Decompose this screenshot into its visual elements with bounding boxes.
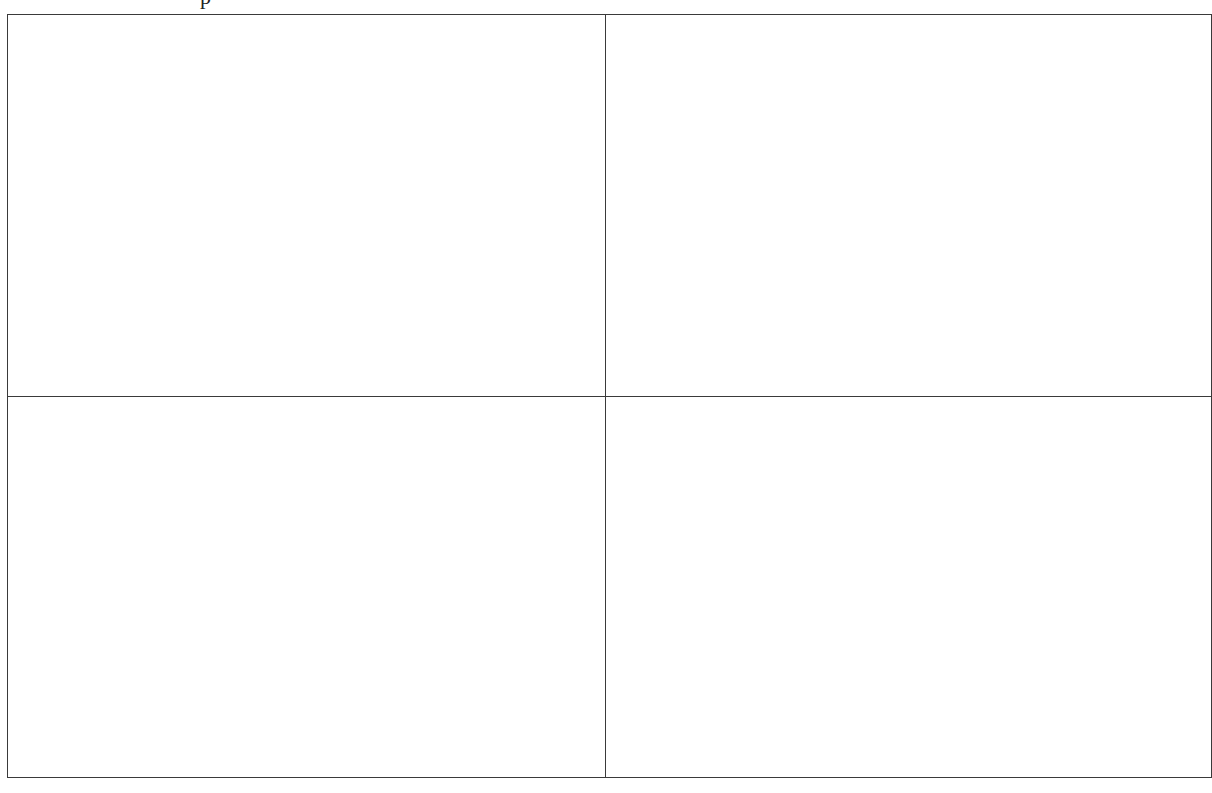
table-cell-bottom-right — [606, 397, 1212, 778]
table-row — [8, 15, 1212, 397]
cropped-heading-text: p — [200, 0, 211, 8]
table-cell-top-right — [606, 15, 1212, 397]
table-cell-bottom-left — [8, 397, 606, 778]
table-cell-top-left — [8, 15, 606, 397]
empty-grid-table — [7, 14, 1212, 778]
table-row — [8, 397, 1212, 778]
